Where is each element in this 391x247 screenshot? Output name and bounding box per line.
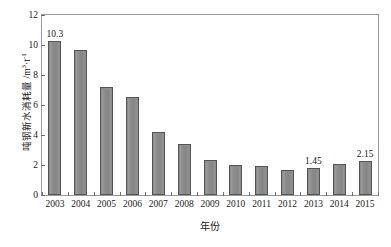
bar	[255, 166, 268, 195]
x-axis-tick-mark	[68, 192, 69, 196]
bar-fill	[335, 166, 344, 194]
bar-value-label: 1.45	[293, 156, 333, 166]
bar	[126, 97, 139, 195]
x-axis-tick-mark	[223, 192, 224, 196]
bar-fill	[361, 163, 370, 194]
bar	[307, 168, 320, 195]
bar-fill	[102, 89, 111, 194]
x-axis-tick-mark	[300, 192, 301, 196]
y-axis-tick-label: 2	[16, 161, 38, 170]
bar	[74, 50, 87, 196]
y-axis-tick-label: 8	[16, 71, 38, 80]
x-axis-tick-mark	[275, 192, 276, 196]
x-axis-tick-mark	[378, 192, 379, 196]
bar-chart-figure: 吨钢新水消耗量 /m3·t-1 024681012 10.31.452.15 2…	[0, 0, 391, 247]
x-axis-tick-mark	[94, 192, 95, 196]
x-axis-tick-mark	[197, 192, 198, 196]
bars-layer	[42, 15, 378, 195]
bar-fill	[257, 168, 266, 194]
x-axis-tick-mark	[42, 192, 43, 196]
bar	[359, 161, 372, 195]
bar-fill	[76, 52, 85, 195]
bar	[229, 165, 242, 195]
x-axis-tick-mark	[249, 192, 250, 196]
bar-fill	[154, 134, 163, 194]
x-axis-tick-mark	[326, 192, 327, 196]
bar-fill	[128, 99, 137, 194]
x-axis-title: 年份	[41, 218, 379, 233]
bar	[48, 41, 61, 196]
y-axis-tick-label: 6	[16, 101, 38, 110]
bar	[204, 160, 217, 195]
bar	[178, 144, 191, 195]
y-axis-tick-label: 0	[16, 191, 38, 200]
y-axis-tick-label: 4	[16, 131, 38, 140]
bar-value-label: 2.15	[345, 149, 385, 159]
bar	[100, 87, 113, 195]
y-axis-unit-exponent-3: 3	[20, 65, 28, 69]
bar-fill	[180, 146, 189, 194]
bar-fill	[50, 43, 59, 195]
x-axis-tick-mark	[145, 192, 146, 196]
bar-fill	[309, 170, 318, 194]
x-axis-tick-mark	[352, 192, 353, 196]
y-axis-unit-exponent-minus1: -1	[20, 53, 28, 59]
bar	[281, 170, 294, 196]
y-axis-tick-label: 10	[16, 41, 38, 50]
bar-value-label: 10.3	[35, 29, 75, 39]
x-axis-tick-label: 2015	[350, 199, 380, 210]
y-axis-unit-mid: ·t	[22, 59, 32, 65]
bar-fill	[206, 162, 215, 194]
bar-fill	[283, 172, 292, 195]
y-axis-tick-label: 12	[16, 11, 38, 20]
bar	[333, 164, 346, 195]
bar-fill	[231, 167, 240, 194]
x-axis-tick-mark	[120, 192, 121, 196]
bar	[152, 132, 165, 195]
x-axis-tick-mark	[171, 192, 172, 196]
